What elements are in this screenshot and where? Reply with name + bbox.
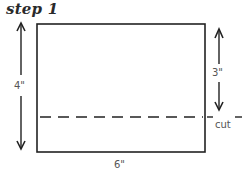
paper-rectangle <box>37 24 205 152</box>
cut-distance-label: 3" <box>212 67 223 78</box>
height-label: 4" <box>14 80 25 91</box>
cutting-diagram <box>0 0 250 176</box>
width-label: 6" <box>114 159 125 170</box>
cut-label: cut <box>215 119 231 130</box>
